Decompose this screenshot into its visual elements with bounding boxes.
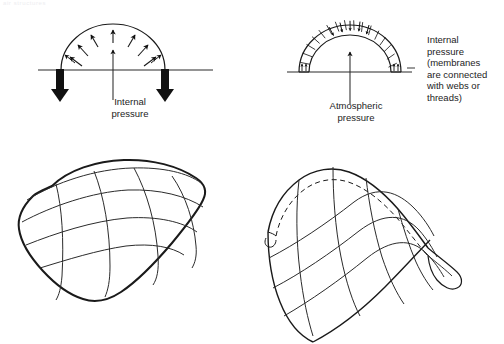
panel-air-supported-arch <box>38 24 213 102</box>
vault-left-end-cap <box>265 238 276 247</box>
caption-internal-pressure-left: Internal pressure <box>74 96 186 119</box>
vault-far-ridge <box>268 169 428 248</box>
panel-air-inflated-arch <box>287 20 415 104</box>
dome-cables-longitudinal <box>22 168 203 268</box>
caption-atmospheric-pressure: Atmospheric pressure <box>300 100 412 123</box>
membrane-webs <box>300 20 397 67</box>
vault-front-edge <box>313 240 430 342</box>
dome-silhouette <box>19 160 205 301</box>
vault-rolled-end <box>428 248 462 289</box>
panel-air-inflated-vault <box>265 167 462 342</box>
vault-lines-longitudinal <box>269 192 444 316</box>
panel-air-supported-dome <box>19 160 205 301</box>
dome-cables-transverse <box>56 168 196 300</box>
anchor-arrow-left <box>51 69 69 102</box>
caption-internal-pressure-right: Internal pressure (membranes are connect… <box>427 34 503 103</box>
vault-ribs-transverse <box>297 167 433 336</box>
figure-root: air structures <box>0 0 504 344</box>
